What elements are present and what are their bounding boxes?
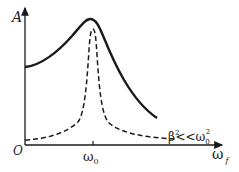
omega0-label: ω0 [83,149,99,166]
damping-condition-label: β2<<ω02 [168,128,210,146]
dashed-resonance-curve [25,29,176,140]
resonance-diagram: A O ω0 ωf β2<<ω02 [0,0,239,172]
origin-label: O [13,144,23,158]
y-axis-label: A [10,9,22,25]
x-axis-label: ωf [212,146,230,165]
